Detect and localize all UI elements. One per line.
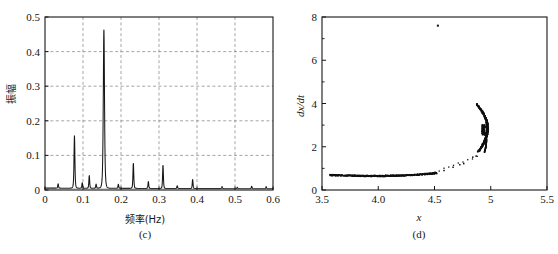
svg-text:5.5: 5.5 [540, 193, 554, 205]
svg-text:4.5: 4.5 [428, 193, 442, 205]
svg-text:6: 6 [312, 54, 318, 66]
svg-text:0.4: 0.4 [190, 193, 204, 205]
svg-text:0: 0 [35, 184, 41, 196]
panel-c-yaxis-label: 振幅 [3, 62, 18, 126]
svg-text:0: 0 [312, 184, 318, 196]
figure-container: 00.10.20.30.40.50.600.10.20.30.40.5 频率(H… [0, 0, 558, 254]
svg-text:8: 8 [312, 11, 318, 23]
svg-text:0.3: 0.3 [152, 193, 166, 205]
svg-text:0.1: 0.1 [76, 193, 90, 205]
panel-d-yaxis-label: dx/dt [294, 74, 306, 138]
svg-text:0.1: 0.1 [26, 149, 40, 161]
svg-text:0.4: 0.4 [26, 46, 40, 58]
panel-d-caption: (d) [280, 228, 558, 240]
svg-text:0.6: 0.6 [266, 193, 280, 205]
svg-text:3.5: 3.5 [315, 193, 329, 205]
svg-text:0.3: 0.3 [26, 80, 40, 92]
svg-text:0.2: 0.2 [26, 115, 40, 127]
svg-text:0.5: 0.5 [228, 193, 242, 205]
panel-d-xaxis-label: x [280, 211, 558, 223]
panel-c-caption: (c) [0, 228, 290, 240]
svg-text:0: 0 [42, 193, 48, 205]
panel-c-xaxis-label: 频率(Hz) [0, 211, 290, 226]
svg-text:0.5: 0.5 [26, 11, 40, 23]
svg-text:5: 5 [488, 193, 494, 205]
svg-text:4.0: 4.0 [371, 193, 385, 205]
svg-text:0.2: 0.2 [114, 193, 128, 205]
svg-text:2: 2 [312, 141, 318, 153]
svg-text:4: 4 [312, 98, 318, 110]
